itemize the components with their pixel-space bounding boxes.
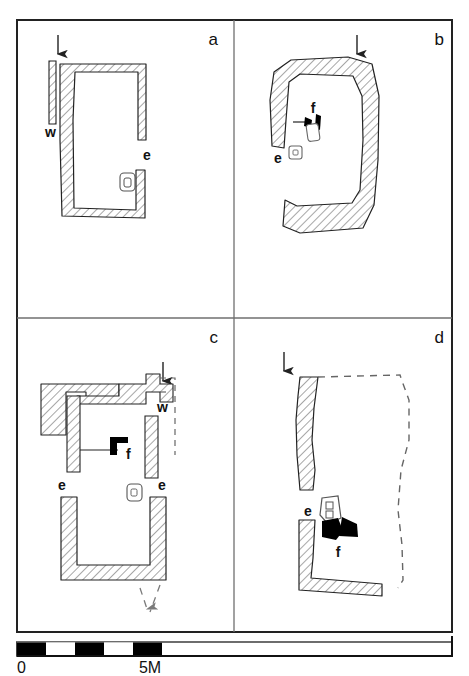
figure-root: a w e f e b [0, 0, 469, 676]
feature-label-a-e: e [143, 147, 151, 163]
plan-figure: a w e f e b [0, 0, 469, 676]
wall-stub-a-w [49, 61, 56, 124]
feature-label-b-f: f [311, 100, 316, 116]
small-feature-a [120, 173, 135, 191]
panel-label-c: c [210, 328, 219, 347]
feature-label-c-e2: e [158, 477, 166, 493]
feature-label-d-e: e [304, 503, 312, 519]
wall-c-left-inner [67, 396, 80, 472]
panel-label-b: b [435, 30, 444, 49]
scale-label-start: 0 [17, 659, 26, 676]
feature-label-a-w: w [44, 124, 56, 140]
panel-label-a: a [209, 30, 219, 49]
scale-segment-3 [75, 642, 104, 656]
scale-segment-1 [17, 642, 46, 656]
feature-label-c-w: w [156, 399, 168, 415]
scale-segment-5 [133, 642, 162, 656]
feature-label-b-e: e [274, 150, 282, 166]
small-feature-c [127, 484, 142, 501]
panel-label-d: d [435, 328, 444, 347]
entrance-feature-b [289, 146, 302, 159]
scale-segment-4 [104, 642, 133, 656]
feature-label-c-f: f [126, 446, 131, 462]
feature-label-c-e1: e [58, 477, 66, 493]
scale-segment-2 [46, 642, 75, 656]
scale-label-end: 5M [139, 659, 161, 676]
feature-label-d-f: f [336, 544, 341, 560]
wall-c-right-inner [145, 416, 158, 478]
